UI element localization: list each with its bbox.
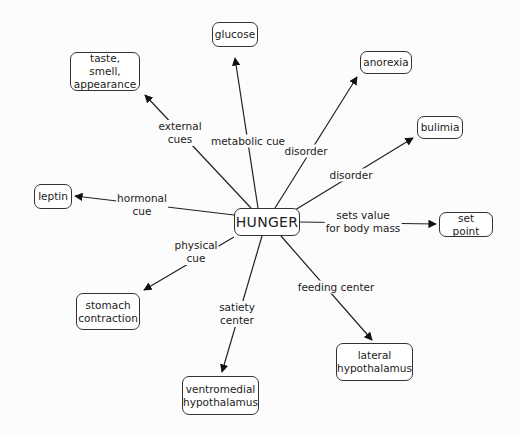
node-stomach[interactable]: stomach contraction (76, 293, 140, 330)
node-leptin[interactable]: leptin (34, 184, 72, 209)
edge-label-bulimia: disorder (328, 169, 373, 182)
edge-label-lateral: feeding center (297, 281, 376, 294)
node-taste[interactable]: taste, smell, appearance (70, 52, 140, 91)
node-hunger[interactable]: HUNGER (234, 208, 300, 236)
node-lateral[interactable]: lateral hypothalamus (336, 343, 413, 381)
node-setpoint[interactable]: set point (439, 212, 493, 237)
edge-label-ventromedial: satiety center (218, 301, 256, 327)
edge-label-stomach: physical cue (173, 239, 218, 265)
node-bulimia[interactable]: bulimia (417, 116, 463, 139)
edge-label-glucose: metabolic cue (210, 135, 286, 148)
edge-label-leptin: hormonal cue (116, 192, 168, 218)
node-ventromedial[interactable]: ventromedial hypothalamus (182, 376, 259, 415)
node-glucose[interactable]: glucose (212, 22, 258, 47)
edge-label-anorexia: disorder (283, 145, 328, 158)
edge-label-setpoint: sets value for body mass (325, 209, 402, 235)
edge-label-taste: external cues (157, 120, 202, 146)
node-anorexia[interactable]: anorexia (360, 51, 412, 74)
edge-hunger-glucose (235, 58, 258, 208)
edge-hunger-anorexia (275, 77, 357, 208)
